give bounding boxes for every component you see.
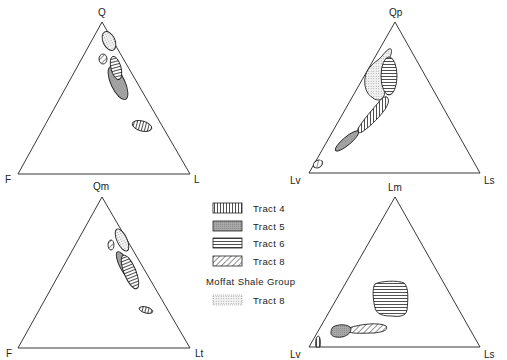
qfl-apex-right: L xyxy=(194,174,200,185)
legend-group-title: Moffat Shale Group xyxy=(206,276,295,287)
qfl-diagram: Q F L xyxy=(5,7,200,185)
qplvls-field-tract5 xyxy=(333,128,361,153)
legend-label-tract4: Tract 4 xyxy=(253,203,285,214)
lmlvls-field-tract4 xyxy=(316,336,321,347)
qfl-field-tract4 xyxy=(131,119,153,134)
qplvls-field-tract6 xyxy=(381,57,397,95)
qmflt-apex-left: F xyxy=(6,348,12,359)
qmflt-field-tract8 xyxy=(108,240,114,250)
ternary-figure: Q F L Qp Lv Ls Qm F Lt Lm Lv Ls xyxy=(0,0,507,360)
qplvls-apex-top: Qp xyxy=(389,7,403,18)
lmlvls-field-tract5 xyxy=(331,325,351,338)
legend-label-moffat-tract8: Tract 8 xyxy=(253,295,285,306)
qfl-apex-left: F xyxy=(5,174,11,185)
qmflt-field-tract6 xyxy=(118,253,143,291)
qplvls-apex-right: Ls xyxy=(484,175,495,186)
qmflt-apex-right: Lt xyxy=(195,348,204,359)
qplvls-triangle xyxy=(309,22,480,173)
qmflt-diagram: Qm F Lt xyxy=(6,181,204,359)
qplvls-field-tract8 xyxy=(312,158,324,169)
legend-swatch-tract8 xyxy=(213,256,242,266)
qmflt-triangle xyxy=(18,197,190,348)
qfl-field-tract8 xyxy=(99,54,107,64)
qmflt-field-moffat-tract8 xyxy=(112,227,131,253)
qplvls-apex-left: Lv xyxy=(290,175,301,186)
legend-swatch-moffat-tract8 xyxy=(213,295,242,305)
lmlvls-diagram: Lm Lv Ls xyxy=(290,182,495,360)
qmflt-field-tract4 xyxy=(138,305,153,314)
legend-swatch-tract6 xyxy=(213,238,242,248)
lmlvls-field-tract6 xyxy=(373,281,408,316)
lmlvls-apex-left: Lv xyxy=(290,349,301,360)
lmlvls-apex-right: Ls xyxy=(484,349,495,360)
legend-swatch-tract5 xyxy=(213,221,242,231)
qfl-field-moffat-tract8 xyxy=(99,29,118,52)
qfl-apex-top: Q xyxy=(98,7,106,18)
qmflt-apex-top: Qm xyxy=(93,181,109,192)
legend-label-tract6: Tract 6 xyxy=(253,238,285,249)
legend: Tract 4 Tract 5 Tract 6 Tract 8 Moffat S… xyxy=(206,203,295,306)
lmlvls-apex-top: Lm xyxy=(388,182,402,193)
legend-swatch-tract4 xyxy=(213,203,242,213)
lmlvls-triangle xyxy=(309,197,480,347)
qplvls-diagram: Qp Lv Ls xyxy=(290,7,495,186)
legend-label-tract5: Tract 5 xyxy=(253,221,285,232)
qplvls-field-tract4 xyxy=(358,97,389,133)
lmlvls-field-tract8 xyxy=(349,324,387,333)
legend-label-tract8: Tract 8 xyxy=(253,256,285,267)
